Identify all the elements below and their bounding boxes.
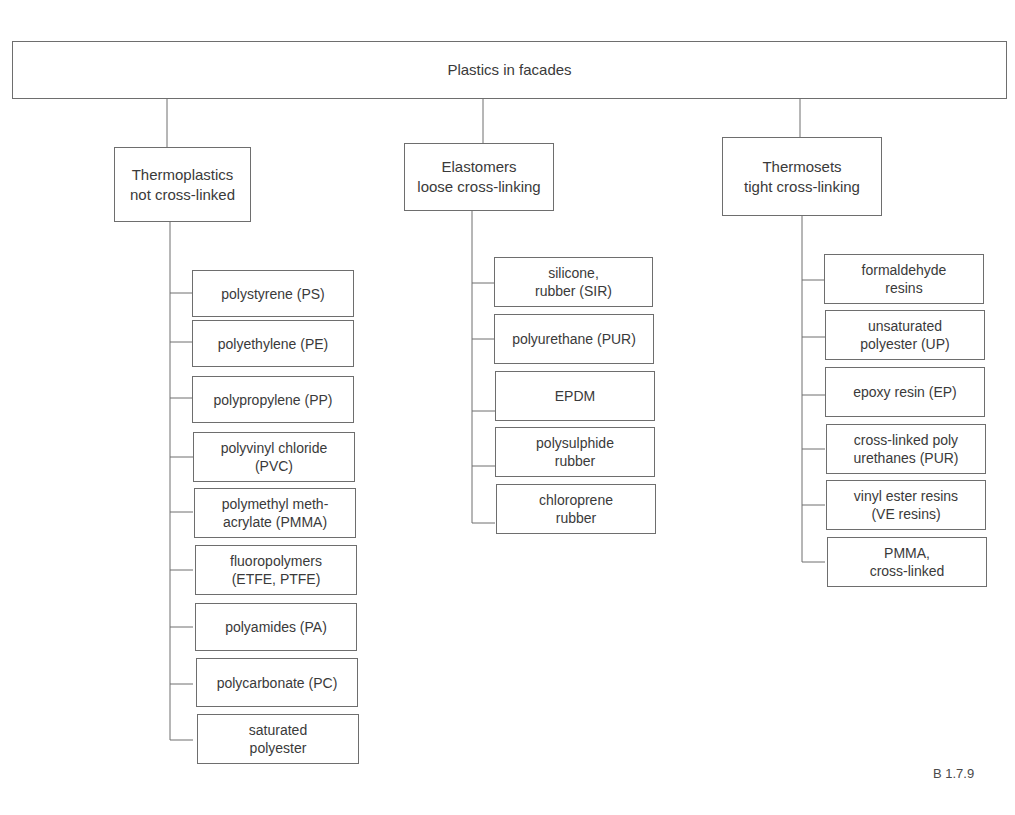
item-epoxy-resin: epoxy resin (EP) <box>825 367 985 417</box>
item-fluoropolymers: fluoropolymers (ETFE, PTFE) <box>195 545 357 595</box>
item-silicone-rubber: silicone, rubber (SIR) <box>494 257 653 307</box>
item-polypropylene: polypropylene (PP) <box>192 376 354 423</box>
item-polycarbonate: polycarbonate (PC) <box>196 658 358 707</box>
item-polysulphide-rubber: polysulphide rubber <box>495 427 655 477</box>
root-node: Plastics in facades <box>12 41 1007 99</box>
item-polyamides: polyamides (PA) <box>195 603 357 651</box>
category-thermosets: Thermosets tight cross-linking <box>722 137 882 216</box>
item-pmma: polymethyl meth- acrylate (PMMA) <box>194 488 356 538</box>
category-elastomers: Elastomers loose cross-linking <box>404 143 554 211</box>
item-cross-linked-polyurethanes: cross-linked poly urethanes (PUR) <box>826 424 986 474</box>
item-unsaturated-polyester: unsaturated polyester (UP) <box>825 310 985 360</box>
item-vinyl-ester-resins: vinyl ester resins (VE resins) <box>826 480 986 530</box>
category-thermoplastics: Thermoplastics not cross-linked <box>114 147 251 222</box>
item-epdm: EPDM <box>495 371 655 421</box>
diagram-canvas: Plastics in facades Thermoplastics not c… <box>0 0 1015 815</box>
item-chloroprene-rubber: chloroprene rubber <box>496 484 656 534</box>
item-saturated-polyester: saturated polyester <box>197 714 359 764</box>
item-pmma-cross-linked: PMMA, cross-linked <box>827 537 987 587</box>
item-polyethylene: polyethylene (PE) <box>192 320 354 367</box>
figure-number: B 1.7.9 <box>933 766 974 781</box>
item-formaldehyde-resins: formaldehyde resins <box>824 254 984 304</box>
item-polyurethane: polyurethane (PUR) <box>494 314 654 364</box>
item-polystyrene: polystyrene (PS) <box>192 270 354 317</box>
item-pvc: polyvinyl chloride (PVC) <box>193 432 355 482</box>
